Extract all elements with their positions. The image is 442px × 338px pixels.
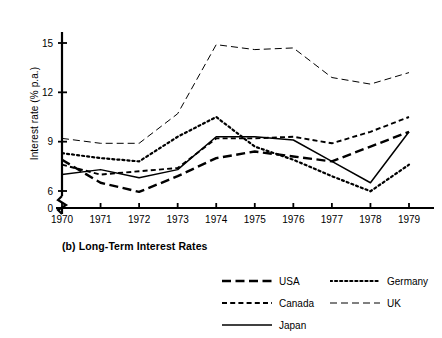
series-line-usa bbox=[62, 132, 409, 192]
legend-item-germany[interactable]: Germany bbox=[330, 276, 430, 287]
x-tick-label: 1976 bbox=[282, 214, 305, 225]
chart-legend: USAGermanyCanadaUKJapan bbox=[222, 270, 437, 336]
legend-item-japan[interactable]: Japan bbox=[222, 320, 330, 331]
x-tick-label: 1977 bbox=[321, 214, 344, 225]
x-tick-label: 1975 bbox=[244, 214, 267, 225]
x-tick-label: 1978 bbox=[359, 214, 382, 225]
legend-label: Japan bbox=[279, 320, 306, 331]
chart-root: 0691215 19701971197219731974197519761977… bbox=[0, 0, 442, 338]
legend-swatch-canada bbox=[222, 298, 272, 308]
series-line-japan bbox=[62, 132, 409, 183]
y-tick-label: 9 bbox=[47, 136, 53, 147]
series-line-germany bbox=[62, 117, 409, 191]
legend-item-uk[interactable]: UK bbox=[330, 298, 430, 309]
legend-swatch-usa bbox=[222, 276, 272, 286]
series-line-uk bbox=[62, 45, 409, 144]
y-tick-label: 0 bbox=[47, 203, 53, 214]
x-tick-label: 1973 bbox=[167, 214, 190, 225]
plot-area: 0691215 19701971197219731974197519761977… bbox=[0, 0, 442, 230]
legend-row: USAGermany bbox=[222, 270, 437, 292]
x-tick-label: 1971 bbox=[89, 214, 112, 225]
legend-label: Germany bbox=[387, 276, 428, 287]
x-tick-label: 1972 bbox=[128, 214, 151, 225]
legend-item-canada[interactable]: Canada bbox=[222, 298, 330, 309]
data-series-group bbox=[62, 45, 409, 192]
legend-swatch-uk bbox=[330, 298, 380, 308]
y-tick-label: 6 bbox=[47, 186, 53, 197]
series-line-canada bbox=[62, 117, 409, 175]
legend-swatch-germany bbox=[330, 276, 380, 286]
y-tick-label-group: 0691215 bbox=[42, 38, 54, 214]
x-tick-label-group: 1970197119721973197419751976197719781979 bbox=[51, 214, 421, 225]
x-tick-label: 1974 bbox=[205, 214, 228, 225]
y-tick-label: 15 bbox=[42, 38, 54, 49]
legend-swatch-japan bbox=[222, 320, 272, 330]
legend-item-usa[interactable]: USA bbox=[222, 276, 330, 287]
legend-label: UK bbox=[387, 298, 401, 309]
line-chart-svg: 0691215 19701971197219731974197519761977… bbox=[0, 0, 442, 230]
legend-label: Canada bbox=[279, 298, 314, 309]
legend-row: CanadaUK bbox=[222, 292, 437, 314]
y-axis-title: Interest rate (% p.a.) bbox=[29, 34, 40, 194]
x-tick-label: 1979 bbox=[398, 214, 421, 225]
legend-label: USA bbox=[279, 276, 300, 287]
y-tick-label: 12 bbox=[42, 87, 54, 98]
legend-row: Japan bbox=[222, 314, 437, 336]
chart-caption: (b) Long-Term Interest Rates bbox=[62, 240, 208, 252]
x-tick-label: 1970 bbox=[51, 214, 74, 225]
